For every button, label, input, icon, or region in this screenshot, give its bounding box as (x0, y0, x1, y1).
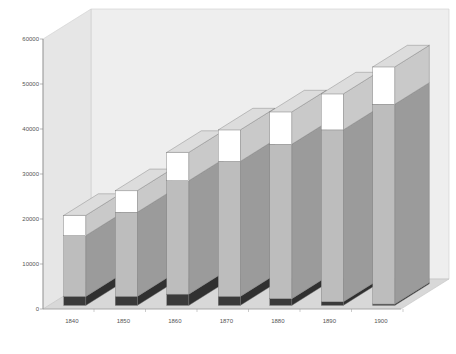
bar-1890 (321, 72, 378, 305)
bar-segment-2 (167, 152, 189, 180)
y-tick-label: 40000 (22, 126, 39, 132)
y-tick-label: 0 (36, 306, 40, 312)
bar-segment-1 (270, 144, 292, 298)
bar-segment-0 (270, 299, 292, 306)
bar-segment-1 (64, 236, 86, 297)
bar-segment-1 (321, 130, 343, 302)
bar-segment-0 (218, 296, 240, 305)
bar-1850 (115, 169, 172, 305)
bar-1880 (270, 90, 327, 305)
bar-segment-1 (218, 161, 240, 296)
y-tick-label: 60000 (22, 36, 39, 42)
y-tick-label: 20000 (22, 216, 39, 222)
y-axis: 0100002000030000400005000060000 (22, 36, 43, 312)
bar-segment-0 (167, 294, 189, 305)
bar-segment-0 (64, 296, 86, 305)
bar-segment-2 (218, 130, 240, 162)
bar-segment-2 (64, 215, 86, 235)
bar-segment-2 (373, 67, 395, 104)
bar-segment-1 (167, 181, 189, 294)
bar-segment-2 (115, 191, 137, 213)
bar-segment-1 (115, 212, 137, 296)
x-tick-label: 1860 (168, 318, 182, 324)
x-tick-label: 1840 (65, 318, 79, 324)
y-tick-label: 10000 (22, 261, 39, 267)
bar-1860 (167, 131, 224, 306)
bar-segment-2 (270, 112, 292, 144)
bar-segment-0 (321, 302, 343, 306)
x-tick-label: 1870 (220, 318, 234, 324)
bar-segment-2 (321, 94, 343, 130)
bar-1900 (373, 45, 430, 305)
x-tick-label: 1880 (271, 318, 285, 324)
x-axis: 1840185018601870188018901900 (43, 309, 403, 324)
x-tick-label: 1890 (323, 318, 337, 324)
y-tick-label: 50000 (22, 81, 39, 87)
bar-segment-0 (373, 304, 395, 305)
x-tick-label: 1900 (374, 318, 388, 324)
y-tick-label: 30000 (22, 171, 39, 177)
bar-side-1 (395, 83, 430, 304)
bar-segment-1 (373, 104, 395, 304)
bar-1870 (218, 108, 275, 305)
bar-segment-0 (115, 296, 137, 305)
bar-1840 (64, 194, 121, 306)
stacked-3d-bar-chart: 0100002000030000400005000060000 18401850… (0, 0, 456, 354)
x-tick-label: 1850 (117, 318, 131, 324)
